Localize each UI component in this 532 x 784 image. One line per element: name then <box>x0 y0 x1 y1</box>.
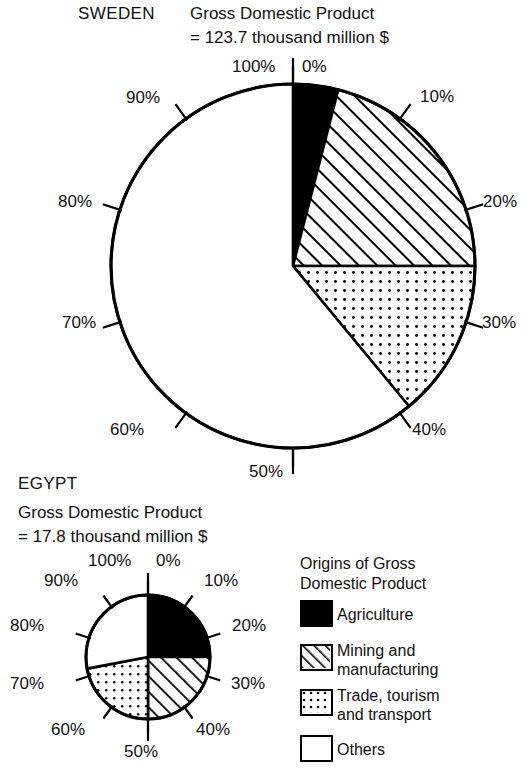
sweden-gdp-line1: Gross Domestic Product <box>190 4 374 24</box>
egypt-tick-80: 80% <box>10 616 44 636</box>
egypt-tick-70: 70% <box>10 674 44 694</box>
pie-slice <box>111 84 409 448</box>
sweden-tick-60: 60% <box>110 420 144 440</box>
pie-slice <box>148 595 210 657</box>
pie-chart-figure: SWEDEN Gross Domestic Product = 123.7 th… <box>0 0 532 784</box>
sweden-tick-40: 40% <box>412 420 446 440</box>
sweden-gdp-line2: = 123.7 thousand million $ <box>190 28 389 48</box>
sweden-tick-70: 70% <box>62 313 96 333</box>
tick-leader-line <box>183 706 192 719</box>
tick-leader-line <box>175 412 187 428</box>
sweden-country-label: SWEDEN <box>78 4 155 24</box>
legend-swatch-mining <box>300 644 333 671</box>
tick-leader-line <box>399 104 411 120</box>
tick-leader-line <box>103 322 122 328</box>
egypt-gdp-line2: = 17.8 thousand million $ <box>18 527 208 547</box>
tick-leader-line <box>205 634 220 639</box>
egypt-tick-40: 40% <box>196 720 230 740</box>
tick-leader-line <box>76 634 91 639</box>
legend-label-trade-line2: and transport <box>337 705 431 724</box>
tick-leader-line <box>183 596 192 609</box>
legend-label-others: Others <box>337 740 385 759</box>
sweden-pie <box>103 58 483 474</box>
egypt-tick-50: 50% <box>124 742 158 762</box>
legend-label-mining-line2: manufacturing <box>337 660 438 679</box>
tick-leader-line <box>464 322 483 328</box>
dotted-fill-icon <box>302 691 330 713</box>
sweden-tick-80: 80% <box>58 192 92 212</box>
diagonal-hatch-icon <box>302 646 330 668</box>
legend-swatch-others <box>300 735 333 762</box>
egypt-tick-0: 0% <box>156 551 181 571</box>
egypt-tick-100: 100% <box>88 551 131 571</box>
pie-slice <box>293 84 338 266</box>
tick-leader-line <box>175 104 187 120</box>
pie-slice <box>148 657 210 719</box>
legend-title-line2: Domestic Product <box>300 574 426 594</box>
sweden-tick-30: 30% <box>482 313 516 333</box>
egypt-pie <box>76 573 221 741</box>
pie-slice <box>86 595 148 669</box>
egypt-tick-60: 60% <box>51 720 85 740</box>
legend-swatch-trade <box>300 689 333 716</box>
tick-leader-line <box>205 676 220 681</box>
sweden-tick-90: 90% <box>126 88 160 108</box>
egypt-tick-30: 30% <box>231 674 265 694</box>
tick-leader-line <box>76 676 91 681</box>
sweden-tick-10: 10% <box>420 87 454 107</box>
tick-leader-line <box>399 412 411 428</box>
legend-label-trade-line1: Trade, tourism <box>337 686 440 705</box>
legend-label-agriculture: Agriculture <box>337 605 413 624</box>
egypt-pie-outline <box>86 595 210 719</box>
tick-leader-line <box>103 706 112 719</box>
egypt-tick-90: 90% <box>44 571 78 591</box>
egypt-country-label: EGYPT <box>18 474 78 494</box>
sweden-pie-outline <box>111 84 475 448</box>
legend-label-mining-line1: Mining and <box>337 641 415 660</box>
tick-leader-line <box>464 204 483 210</box>
egypt-tick-10: 10% <box>204 571 238 591</box>
legend-title-line1: Origins of Gross <box>300 554 416 574</box>
pie-graphics-layer <box>0 0 532 784</box>
legend-swatch-agriculture <box>300 600 333 627</box>
egypt-tick-20: 20% <box>232 616 266 636</box>
pie-slice <box>87 657 148 719</box>
tick-leader-line <box>103 204 122 210</box>
sweden-tick-20: 20% <box>483 192 517 212</box>
pie-slice <box>293 90 475 266</box>
sweden-tick-50: 50% <box>249 462 283 482</box>
egypt-gdp-line1: Gross Domestic Product <box>18 503 202 523</box>
pie-slice <box>293 266 475 406</box>
sweden-tick-0: 0% <box>302 57 327 77</box>
sweden-tick-100: 100% <box>232 57 275 77</box>
tick-leader-line <box>103 596 112 609</box>
